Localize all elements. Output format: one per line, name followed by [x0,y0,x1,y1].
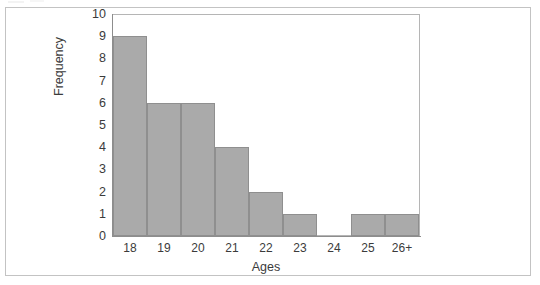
screenshot-canvas: 109876543210 181920212223242526+ Frequen… [0,0,540,285]
x-tick-label: 20 [181,241,215,256]
x-tick-label: 23 [283,241,317,256]
x-axis-title: Ages [112,260,420,274]
histogram-bar [215,147,249,236]
y-tick-label: 3 [84,163,106,176]
histogram-bar [385,214,419,236]
x-tick-label: 25 [351,241,385,256]
histogram-bar [181,103,215,236]
x-tick-label: 19 [147,241,181,256]
histogram-bar [351,214,385,236]
y-tick-label: 7 [84,75,106,88]
y-tick-label: 0 [84,230,106,243]
x-tick-label: 24 [317,241,351,256]
y-tick-label: 8 [84,52,106,65]
x-axis-ticks: 181920212223242526+ [113,241,419,259]
x-axis-line [112,236,421,237]
histogram-bar [249,192,283,236]
y-tick-label: 2 [84,186,106,199]
histogram-bar [113,36,147,236]
histogram-bar [147,103,181,236]
x-tick-label: 22 [249,241,283,256]
y-axis-ticks: 109876543210 [82,14,106,236]
y-tick-label: 10 [84,8,106,21]
y-tick-label: 9 [84,30,106,43]
x-tick-label: 26+ [385,241,419,256]
y-tick-label: 1 [84,208,106,221]
histogram-bar [283,214,317,236]
y-tick-label: 6 [84,97,106,110]
y-tick-label: 4 [84,141,106,154]
y-tick-label: 5 [84,119,106,132]
x-tick-label: 18 [113,241,147,256]
x-tick-label: 21 [215,241,249,256]
bars-group [113,14,419,236]
y-axis-title: Frequency [52,82,66,96]
histogram-figure: 109876543210 181920212223242526+ Frequen… [0,0,540,285]
